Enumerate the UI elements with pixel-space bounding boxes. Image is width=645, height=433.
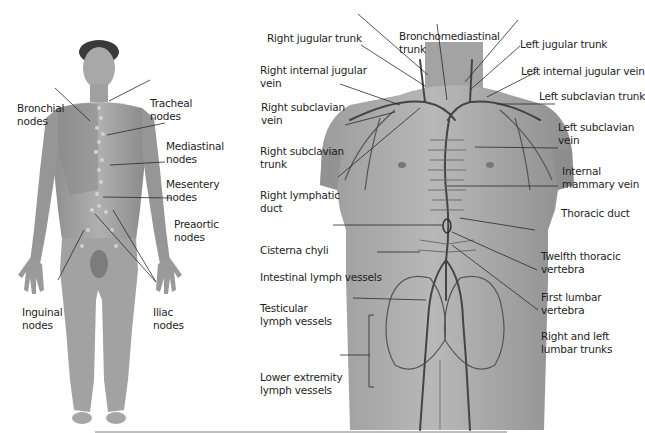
label-right-left-lumbar-trunks: Right and leftlumbar trunks [541, 305, 612, 380]
label-preaortic-nodes: Preaorticnodes [174, 193, 219, 268]
label-bronchial-nodes: Bronchialnodes [17, 77, 64, 152]
label-testicular-lymph-vessels: Testicularlymph vessels [260, 277, 332, 352]
label-lower-extremity-lymph-vessels: Lower extremitylymph vessels [260, 346, 342, 421]
label-bronchomediastinal-trunk: Bronchomediastinaltrunk [399, 5, 500, 80]
label-inguinal-nodes: Inguinalnodes [22, 281, 62, 356]
label-iliac-nodes: Iliacnodes [153, 281, 184, 356]
